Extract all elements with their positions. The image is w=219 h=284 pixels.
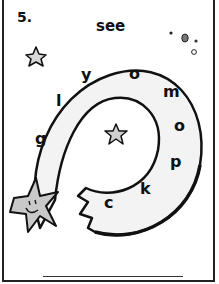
spiral-letter: y <box>81 67 91 83</box>
spiral-illustration <box>0 0 219 284</box>
spiral-letter: g <box>35 131 46 147</box>
spiral-letter: c <box>104 195 113 211</box>
spiral-letter: m <box>163 84 180 100</box>
target-word: see <box>96 17 125 35</box>
answer-line[interactable] <box>43 276 183 277</box>
center-star-icon <box>105 124 127 144</box>
item-number: 5. <box>17 9 32 25</box>
star-outline-icon <box>26 47 46 66</box>
dots-cluster-icon <box>169 31 197 54</box>
spiral-letter: k <box>140 181 151 197</box>
spiral-letter: l <box>56 93 61 109</box>
spiral-letter: o <box>129 66 140 82</box>
spiral-letter: o <box>174 118 185 134</box>
spiral-letter: p <box>170 154 181 170</box>
